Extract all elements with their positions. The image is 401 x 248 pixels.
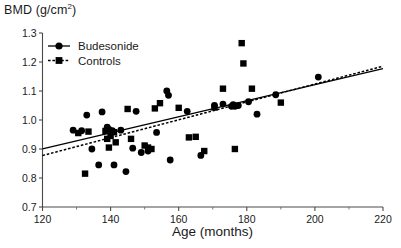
x-tick-label: 200 [306, 213, 324, 225]
legend-label-budesonide: Budesonide [78, 40, 139, 52]
data-point-budesonide [129, 145, 136, 152]
legend-marker-budesonide [55, 42, 62, 49]
data-point-controls [220, 85, 226, 91]
data-point-budesonide [88, 146, 95, 153]
data-point-controls [278, 99, 284, 105]
data-point-budesonide [220, 101, 227, 108]
data-point-controls [186, 134, 192, 140]
data-point-controls [211, 104, 217, 110]
plot-canvas: 0.70.80.91.01.11.21.3120140160180200220 … [0, 0, 401, 248]
data-point-budesonide [165, 92, 172, 99]
x-axis-title: Age (months) [0, 224, 401, 239]
legend-marker-controls [56, 57, 63, 64]
data-point-budesonide [95, 162, 102, 169]
y-tick-label: 0.7 [22, 201, 37, 213]
y-tick-label: 0.8 [22, 172, 37, 184]
data-point-budesonide [167, 157, 174, 164]
x-tick-label: 120 [34, 213, 52, 225]
data-point-budesonide [117, 127, 124, 134]
y-tick-label: 0.9 [22, 143, 37, 155]
data-point-budesonide [133, 108, 140, 115]
data-point-budesonide [138, 149, 145, 156]
data-point-controls [157, 100, 163, 106]
regression-lines-group [43, 66, 384, 155]
data-point-controls [106, 144, 112, 150]
data-point-budesonide [245, 98, 252, 105]
data-point-budesonide [83, 112, 90, 119]
x-tick-label: 160 [170, 213, 188, 225]
data-point-budesonide [315, 74, 322, 81]
data-point-controls [111, 129, 117, 135]
data-point-controls [238, 40, 244, 46]
data-point-controls [128, 136, 134, 142]
data-point-controls [148, 146, 154, 152]
data-point-budesonide [111, 162, 118, 169]
data-point-budesonide [153, 129, 160, 136]
data-point-controls [193, 134, 199, 140]
y-tick-label: 1.3 [22, 27, 37, 39]
bmd-vs-age-scatter-figure: BMD (g/cm2) 0.70.80.91.01.11.21.31201401… [0, 0, 401, 248]
data-point-controls [176, 105, 182, 111]
data-point-controls [201, 148, 207, 154]
legend: BudesonideControls [48, 40, 139, 67]
data-point-budesonide [123, 168, 130, 175]
x-tick-label: 140 [102, 213, 120, 225]
data-point-controls [240, 60, 246, 66]
data-point-controls [249, 85, 255, 91]
x-tick-label: 180 [238, 213, 256, 225]
data-point-budesonide [254, 111, 261, 118]
regression-line-controls [43, 66, 384, 155]
data-point-controls [85, 128, 91, 134]
data-point-budesonide [235, 102, 242, 109]
data-point-budesonide [184, 108, 191, 115]
data-point-controls [113, 139, 119, 145]
y-tick-label: 1.0 [22, 114, 37, 126]
x-tick-label: 220 [374, 213, 392, 225]
y-tick-label: 1.1 [22, 85, 37, 97]
data-point-controls [82, 170, 88, 176]
y-tick-label: 1.2 [22, 56, 37, 68]
data-point-controls [124, 106, 130, 112]
data-point-budesonide [272, 91, 279, 98]
data-point-controls [232, 146, 238, 152]
legend-label-controls: Controls [78, 55, 121, 67]
data-point-budesonide [99, 108, 106, 115]
data-point-controls [75, 130, 81, 136]
